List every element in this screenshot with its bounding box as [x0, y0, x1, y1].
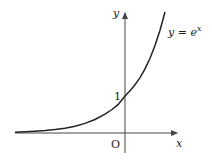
curve-label: y = ex [167, 24, 202, 39]
y-intercept-label: 1 [114, 90, 121, 103]
curve-label-base: y = e [167, 26, 197, 39]
curve-label-exponent: x [197, 24, 202, 33]
y-axis-label: y [112, 7, 120, 20]
x-axis-label: x [176, 137, 183, 150]
exponential-graph: y x O 1 y = ex [0, 0, 212, 166]
origin-label: O [111, 138, 120, 151]
curve-line [15, 12, 165, 132]
